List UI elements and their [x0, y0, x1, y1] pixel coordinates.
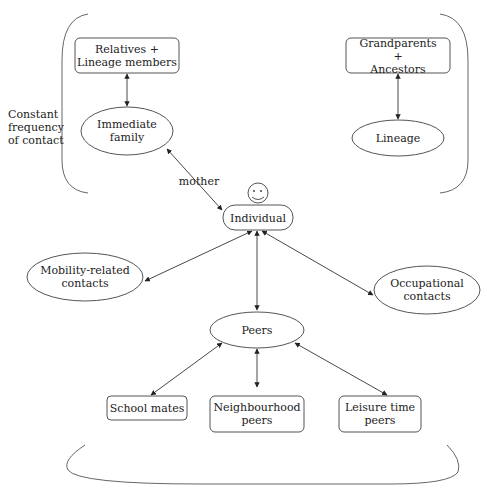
immediate-family-label: Immediate family [97, 118, 157, 144]
bottom-brace [67, 445, 459, 484]
edge-peers-leisure [295, 343, 387, 395]
diagram-canvas: Constant frequency of contact mother Rel… [0, 0, 487, 497]
edge-individual-mobility [145, 231, 252, 281]
lineage-label: Lineage [376, 132, 421, 145]
peers-label: Peers [242, 324, 273, 337]
school-mates-label: School mates [110, 402, 185, 415]
edge-individual-occupational [262, 231, 373, 295]
grandparents-label: Grandparents + Ancestors [354, 37, 443, 76]
occupational-label: Occupational contacts [390, 277, 464, 303]
constant-frequency-label: Constant frequency of contact [8, 108, 64, 147]
edge-peers-school [151, 343, 222, 395]
individual-label: Individual [230, 212, 286, 225]
neighbourhood-label: Neighbourhood peers [213, 401, 300, 427]
mobility-label: Mobility-related contacts [40, 264, 130, 290]
relatives-label: Relatives + Lineage members [77, 43, 177, 69]
mother-edge-label: mother [179, 175, 219, 188]
smiley-face-icon [248, 183, 268, 203]
leisure-label: Leisure time peers [345, 401, 415, 427]
